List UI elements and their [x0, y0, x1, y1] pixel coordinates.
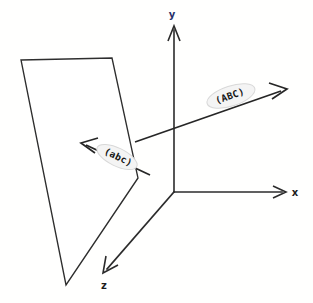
diagram-canvas: (ABC) (abc) y x z: [0, 0, 313, 303]
crystal-plane-polygon: [21, 58, 138, 285]
z-axis-label: z: [101, 280, 107, 291]
x-axis-label: x: [292, 187, 299, 198]
y-axis-label: y: [169, 9, 176, 20]
vector-abc-upper-arrowhead: [269, 83, 287, 99]
diagram-svg: (ABC) (abc) y x z: [0, 0, 313, 303]
